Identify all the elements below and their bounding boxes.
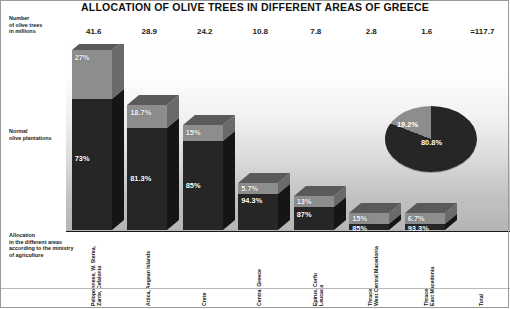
bar-7-front: 6.7%93.3% [405,213,445,230]
x-axis-label-6-line-2: West Central Macedonia [373,236,379,306]
totals-row: 41.628.924.210.87.82.81.6=117.7 [64,27,510,39]
x-axis-label-5-text: Epirus, CorfuLeucada [312,236,324,306]
bar-2-label-allocation: 18.7% [130,108,151,117]
bar-3[interactable]: 15%85% [183,125,223,230]
bar-7-label-allocation: 6.7% [408,214,425,223]
bar-7-segment-allocation[interactable]: 6.7% [405,213,445,224]
total-value-5: 7.8 [291,27,341,36]
bar-3-label-normal: 85% [186,181,201,190]
legend-label-normal-line-1: Normal [9,128,69,135]
bar-4[interactable]: 5.7%94.3% [238,183,278,230]
bar-2[interactable]: 18.7%81.3% [127,105,167,230]
bar-3-label-allocation: 15% [186,128,201,137]
x-axis-baseline [66,231,510,233]
bar-7[interactable]: 6.7%93.3% [405,213,445,230]
bar-6-segment-normal[interactable]: 85% [349,224,389,230]
bar-1-segment-normal[interactable]: 73% [72,99,112,230]
x-axis-label-3-text: Crete [201,236,207,306]
bar-5-segment-normal[interactable]: 87% [294,207,334,230]
footer-divider [0,288,510,289]
x-axis-label-5-line-1: Epirus, Corfu [312,236,318,306]
bar-4-front: 5.7%94.3% [238,183,278,230]
bar-3-segment-normal[interactable]: 85% [183,141,223,230]
legend-label-normal-plantations: Normal olive plantations [9,128,69,141]
bar-2-segment-allocation[interactable]: 18.7% [127,105,167,128]
bar-5-segment-allocation[interactable]: 13% [294,196,334,207]
bar-6-label-allocation: 15% [352,214,367,223]
bar-3-side-face-normal [223,131,235,230]
legend-label-normal-line-2: olive plantations [9,135,69,142]
x-axis-label-7-line-2: East Macedonia [429,236,435,306]
x-axis-label-7-text: Thrace,East Macedonia [423,236,435,306]
x-axis-label-3-line-1: Crete [201,236,207,306]
bar-2-front: 18.7%81.3% [127,105,167,230]
bar-5-front: 13%87% [294,196,334,230]
x-axis-label-8: Total [478,234,488,306]
bar-1-label-normal: 73% [75,154,90,163]
pie-slice-label-normal: 80.8% [421,138,442,147]
x-axis-label-7-line-1: Thrace, [423,236,429,306]
bar-3-segment-allocation[interactable]: 15% [183,125,223,141]
bar-4-segment-allocation[interactable]: 5.7% [238,183,278,194]
bar-4-label-normal: 94.3% [241,196,262,205]
x-axis-label-8-line-1: Total [478,236,484,306]
total-value-1: 41.6 [69,27,119,36]
bar-5-label-normal: 87% [297,210,312,219]
total-value-7: 1.6 [402,27,452,36]
x-axis-label-1-line-1: Peloponnese, W. Sterea, [90,236,96,306]
bar-6[interactable]: 15%85% [349,213,389,230]
x-axis-label-2-line-1: Attica, Aegean Islands [145,236,151,306]
x-axis-label-4-text: Central Greece [256,236,262,306]
x-axis-label-1-text: Peloponnese, W. Sterea,Zante, Cefalonia [90,236,102,306]
bar-2-side-face-normal [167,118,179,230]
pie-slice-label-allocation: 19.2% [397,120,418,129]
x-axis-label-8-text: Total [478,236,484,306]
bar-1-front: 27%73% [72,50,112,230]
bar-2-label-normal: 81.3% [130,174,151,183]
bar-1-side-face-normal [112,89,124,230]
total-value-2: 28.9 [124,27,174,36]
x-axis-label-2-text: Attica, Aegean Islands [145,236,151,306]
bar-1-label-allocation: 27% [75,53,90,62]
bar-2-segment-normal[interactable]: 81.3% [127,128,167,230]
total-value-6: 2.8 [346,27,396,36]
total-value-4: 10.8 [235,27,285,36]
y-axis-caption-line-1: Number [9,15,67,22]
bar-3-front: 15%85% [183,125,223,230]
chart-figure: ALLOCATION OF OLIVE TREES IN DIFFERENT A… [0,0,510,309]
bar-7-segment-normal[interactable]: 93.3% [405,224,445,230]
total-value-3: 24.2 [180,27,230,36]
x-axis-label-1: Peloponnese, W. Sterea,Zante, Cefalonia [90,234,100,306]
chart-title: ALLOCATION OF OLIVE TREES IN DIFFERENT A… [0,1,510,13]
bar-4-label-allocation: 5.7% [241,184,258,193]
x-axis-label-3: Crete [201,234,211,306]
bar-5-label-allocation: 13% [297,197,312,206]
bar-4-side-face-normal [278,184,290,230]
x-axis-category-labels: Peloponnese, W. Sterea,Zante, CefaloniaA… [66,234,510,306]
plot-area: 27%73%18.7%81.3%15%85%5.7%94.3%13%87%15%… [66,44,510,232]
bar-6-segment-allocation[interactable]: 15% [349,213,389,224]
x-axis-label-6-text: Thrace,West Central Macedonia [367,236,379,306]
bar-6-front: 15%85% [349,213,389,230]
y-axis-caption-line-2: of olive trees [9,22,67,29]
x-axis-label-5: Epirus, CorfuLeucada [312,234,322,306]
x-axis-label-5-line-2: Leucada [318,236,324,306]
x-axis-label-4: Central Greece [256,234,266,306]
bar-1-segment-allocation[interactable]: 27% [72,50,112,99]
x-axis-label-4-line-1: Central Greece [256,236,262,306]
total-value-8: =117.7 [457,27,507,36]
bar-4-segment-normal[interactable]: 94.3% [238,194,278,230]
x-axis-label-2: Attica, Aegean Islands [145,234,155,306]
bar-5[interactable]: 13%87% [294,196,334,230]
bar-1[interactable]: 27%73% [72,50,112,230]
x-axis-label-6: Thrace,West Central Macedonia [367,234,377,306]
x-axis-label-1-line-2: Zante, Cefalonia [96,236,102,306]
y-axis-caption-line-3: in millions [9,28,67,35]
y-axis-caption: Number of olive trees in millions [9,15,67,35]
total-pie-chart: 19.2% 80.8% [385,106,477,172]
x-axis-label-7: Thrace,East Macedonia [423,234,433,306]
